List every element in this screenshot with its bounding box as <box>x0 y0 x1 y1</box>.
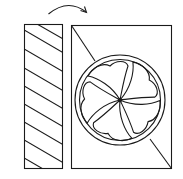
hatched-panel <box>0 16 100 179</box>
curved-arrow-icon <box>49 5 87 14</box>
fan-diagram <box>0 0 183 179</box>
housing-diagonal-lower <box>150 139 172 169</box>
housing-diagonal-upper <box>72 26 96 62</box>
fan-housing <box>72 26 172 169</box>
fan-hub <box>118 98 121 101</box>
